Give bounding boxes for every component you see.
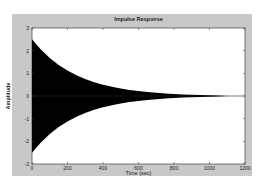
y-tick-label: -2	[20, 138, 29, 144]
x-tick-label: 400	[99, 165, 107, 171]
y-tick-label: 1	[20, 70, 29, 76]
chart-title: Impulse Response	[32, 16, 245, 22]
x-tick-label: 800	[170, 165, 178, 171]
x-tick-label: 0	[31, 165, 34, 171]
y-tick-label: -1	[20, 116, 29, 122]
y-tick-label: 2	[20, 48, 29, 54]
plot-area	[0, 0, 262, 194]
y-tick-label: 0	[20, 93, 29, 99]
y-tick-label: -3	[20, 161, 29, 167]
x-tick-label: 1000	[204, 165, 215, 171]
x-tick-label: 600	[134, 165, 142, 171]
x-tick-label: 200	[63, 165, 71, 171]
x-tick-label: 1200	[239, 165, 250, 171]
y-axis-label: Amplitude	[5, 83, 11, 110]
y-tick-label: 3	[20, 25, 29, 31]
